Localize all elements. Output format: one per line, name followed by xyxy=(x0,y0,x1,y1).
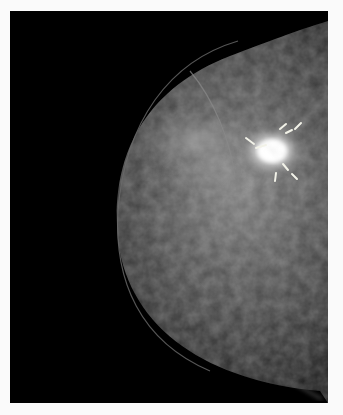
breast-tissue xyxy=(10,11,328,403)
mammogram-render xyxy=(10,11,328,403)
mammogram-image xyxy=(10,11,328,403)
marker-tick xyxy=(275,173,276,181)
